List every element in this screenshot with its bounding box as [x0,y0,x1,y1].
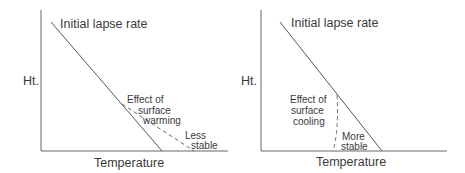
title-label: Initial lapse rate [60,17,148,31]
panel-cooling: Initial lapse rate Ht. Temperature Effec… [241,10,447,169]
initial-lapse-line [280,22,382,151]
effect-label-2: surface [291,105,324,116]
y-axis-label: Ht. [241,74,257,88]
stability-label-2: stable [191,140,218,151]
effect-label-3: cooling [293,116,325,127]
panel-warming: Initial lapse rate Ht. Temperature Effec… [23,10,228,170]
effect-label-3: warming [142,115,181,126]
initial-lapse-line [51,22,162,151]
cooling-dashed-curve [333,95,338,151]
lapse-rate-diagram: Initial lapse rate Ht. Temperature Effec… [0,0,465,173]
effect-label-1: Effect of [290,94,327,105]
x-axis-label: Temperature [94,156,164,170]
effect-label-1: Effect of [127,94,164,105]
y-axis-label: Ht. [23,74,39,88]
x-axis-label: Temperature [316,155,386,169]
stability-label-2: stable [341,141,368,152]
title-label: Initial lapse rate [291,16,379,30]
